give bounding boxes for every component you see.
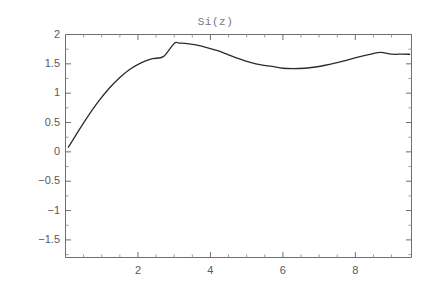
- x-axis-tick-labels: 2468: [0, 0, 431, 286]
- x-tick-label: 4: [190, 264, 230, 276]
- x-tick-label: 6: [263, 264, 303, 276]
- x-tick-label: 8: [335, 264, 375, 276]
- x-tick-label: 2: [118, 264, 158, 276]
- figure-container: Si(z) 21.510.50−0.5−1−1.5 2468: [0, 0, 431, 286]
